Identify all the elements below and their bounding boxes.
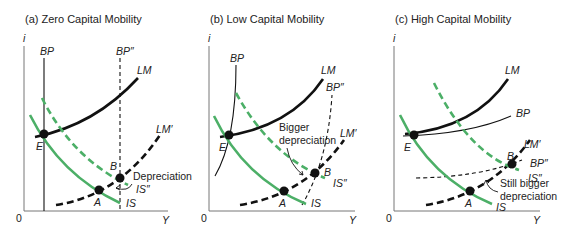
panel-low-capital-mobility: (b) Low Capital Mobility i 0 Y BP BP″ LM… bbox=[201, 13, 358, 226]
panel-c-is-label: IS bbox=[496, 201, 506, 213]
panel-b-origin: 0 bbox=[201, 212, 207, 224]
panel-c-lm2-label: LM′ bbox=[524, 138, 542, 150]
panel-high-capital-mobility: (c) High Capital Mobility i 0 Y BP BP″ L… bbox=[386, 13, 557, 226]
panel-b-y-axis-label: i bbox=[208, 32, 211, 44]
panel-c-point-e bbox=[410, 131, 419, 140]
panel-a-x-axis-label: Y bbox=[162, 214, 170, 226]
panel-a-arrowhead-icon bbox=[116, 185, 120, 190]
panel-b-note-line1: Bigger bbox=[279, 121, 310, 133]
panel-c-point-a bbox=[466, 187, 475, 196]
panel-b-bp2-label: BP″ bbox=[326, 81, 345, 93]
panel-a-is-label: IS bbox=[126, 197, 136, 209]
panel-c-y-axis-label: i bbox=[393, 32, 396, 44]
panel-c-point-e-label: E bbox=[404, 141, 412, 153]
panel-a-point-b-label: B bbox=[110, 160, 117, 172]
panel-a-bp-label: BP bbox=[40, 45, 54, 57]
panel-c-x-axis-label: Y bbox=[533, 214, 541, 226]
panel-b-title: (b) Low Capital Mobility bbox=[210, 13, 325, 25]
panel-a-title: (a) Zero Capital Mobility bbox=[25, 13, 142, 25]
panel-b-x-axis-label: Y bbox=[349, 214, 357, 226]
panel-b-note-line2: depreciation bbox=[279, 134, 336, 146]
panel-b-bp-curve bbox=[215, 65, 236, 176]
panel-zero-capital-mobility: (a) Zero Capital Mobility i 0 Y BP BP″ L… bbox=[16, 13, 192, 226]
panel-a-bp2-label: BP″ bbox=[116, 45, 135, 57]
panel-a-point-e bbox=[40, 130, 49, 139]
panel-a-lm-curve bbox=[35, 78, 138, 137]
panel-c-lm-curve bbox=[405, 79, 508, 134]
panel-c-bp2-label: BP″ bbox=[530, 157, 549, 169]
panel-c-is-curve bbox=[400, 115, 492, 204]
panel-a-point-b bbox=[116, 174, 125, 183]
panel-b-bp-label: BP bbox=[230, 52, 244, 64]
panel-c-origin: 0 bbox=[386, 212, 392, 224]
panel-b-point-e bbox=[225, 131, 234, 140]
panel-a-point-a-label: A bbox=[93, 196, 101, 208]
panel-a-note: Depreciation bbox=[133, 170, 192, 182]
panel-a-lm2-label: LM′ bbox=[156, 123, 174, 135]
panel-c-title: (c) High Capital Mobility bbox=[395, 13, 512, 25]
panel-c-lm-label: LM bbox=[505, 64, 520, 76]
panel-c-point-a-label: A bbox=[464, 197, 472, 209]
panel-a-lm-label: LM bbox=[137, 64, 152, 76]
panel-a-origin: 0 bbox=[16, 212, 22, 224]
panel-b-is-label: IS bbox=[311, 197, 321, 209]
panel-c-note-line2: depreciation bbox=[500, 190, 557, 202]
panel-b-is2-label: IS″ bbox=[333, 177, 348, 189]
panel-b-point-a-label: A bbox=[278, 197, 286, 209]
panel-b-bp2-curve bbox=[302, 95, 332, 205]
panel-a-is2-label: IS″ bbox=[136, 183, 151, 195]
panel-b-lm2-label: LM′ bbox=[340, 127, 358, 139]
panel-a-y-axis-label: i bbox=[23, 32, 26, 44]
panel-b-point-b-label: B bbox=[324, 166, 331, 178]
panel-b-lm-label: LM bbox=[321, 64, 336, 76]
panel-b-point-b bbox=[311, 169, 320, 178]
panel-a-point-a bbox=[95, 186, 104, 195]
panel-a-point-e-label: E bbox=[36, 140, 44, 152]
panel-b-point-e-label: E bbox=[219, 141, 227, 153]
panel-c-point-b-label: B bbox=[507, 150, 514, 162]
panel-c-note-line1: Still bigger bbox=[500, 177, 550, 189]
is-lm-bp-diagram: (a) Zero Capital Mobility i 0 Y BP BP″ L… bbox=[0, 0, 564, 232]
panel-b-point-a bbox=[280, 187, 289, 196]
panel-c-bp-label: BP bbox=[516, 107, 530, 119]
